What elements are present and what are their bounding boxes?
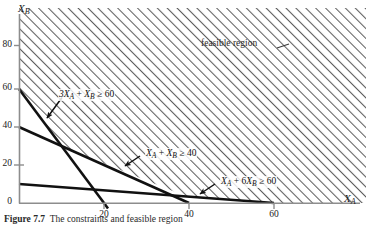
x-axis-title-var: X (344, 192, 351, 204)
figure-caption-label: Figure (4, 214, 31, 224)
constraint-1-rhs: 60 (105, 89, 115, 99)
feasible-region-label: feasible region (201, 38, 257, 48)
y-tick-label-0: 0 (2, 196, 12, 206)
y-tick-label-20: 20 (0, 158, 12, 168)
y-axis-title-sub: B (25, 7, 30, 16)
constraint-3-plus: + 6 (231, 176, 246, 186)
constraint-2-rhs: 40 (187, 148, 197, 158)
constraint-3-rhs: 60 (267, 176, 277, 186)
figure-container: XB XA 80 60 40 20 0 20 40 60 feasible re… (0, 0, 366, 228)
constraint-1-relation: ≥ (95, 89, 105, 99)
constraint-2-relation: ≥ (177, 148, 187, 158)
y-tick-label-40: 40 (0, 120, 12, 130)
constraint-1-plus: + (74, 89, 84, 99)
constraint-2-plus: + (156, 148, 166, 158)
y-axis-title-var: X (18, 2, 25, 14)
y-axis-title: XB (18, 2, 30, 16)
y-tick-label-60: 60 (0, 82, 12, 92)
x-axis-title-sub: A (351, 197, 356, 206)
plot-canvas (0, 0, 366, 228)
x-axis-title: XA (344, 192, 356, 206)
y-tick-label-80: 80 (0, 39, 12, 49)
figure-caption-text: The constraints and feasible region (50, 214, 183, 224)
constraint-label-3: XA + 6XB ≥ 60 (220, 176, 277, 188)
constraint-label-1: 3XA + XB ≥ 60 (58, 89, 115, 101)
feasible-region-hatch (19, 8, 366, 203)
constraint-label-2: XA + XB ≥ 40 (145, 148, 197, 160)
constraint-3-relation: ≥ (257, 176, 267, 186)
figure-caption: Figure 7.7 The constraints and feasible … (4, 214, 362, 227)
figure-caption-number: 7.7 (33, 214, 45, 224)
